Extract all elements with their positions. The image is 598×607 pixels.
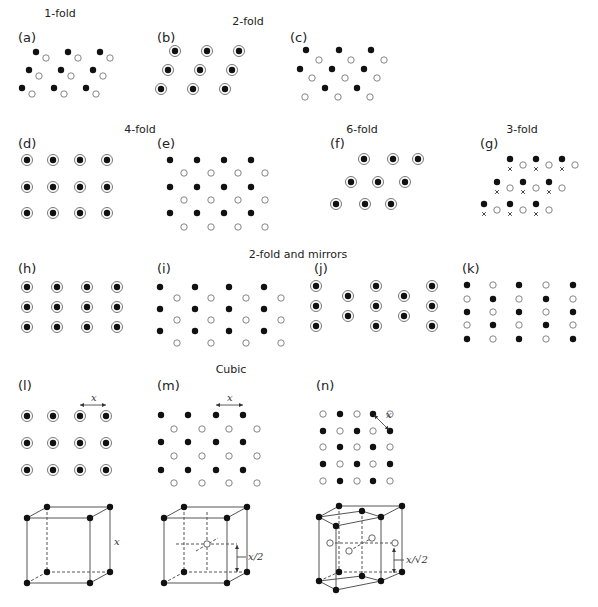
filled-atom bbox=[481, 201, 487, 207]
filled-atom bbox=[172, 48, 178, 54]
open-atom bbox=[61, 91, 67, 97]
open-atom bbox=[337, 428, 343, 434]
open-atom bbox=[367, 94, 373, 100]
section-title-cubic: Cubic bbox=[216, 363, 247, 376]
open-atom bbox=[243, 317, 249, 323]
cross-mark bbox=[508, 212, 512, 216]
cube-height-label-m: x/2 bbox=[248, 551, 263, 562]
open-atom bbox=[302, 94, 308, 100]
cell-atom bbox=[44, 569, 50, 575]
filled-atom bbox=[24, 324, 30, 330]
cell-atom bbox=[244, 569, 250, 575]
spacing-label-l: x bbox=[91, 392, 97, 403]
open-atom bbox=[174, 295, 180, 301]
filled-atom bbox=[114, 304, 120, 310]
cell-atom bbox=[316, 514, 322, 520]
filled-atom bbox=[194, 157, 200, 163]
section-titles: 1-fold2-fold4-fold6-fold3-fold2-fold and… bbox=[44, 7, 538, 376]
filled-atom bbox=[320, 428, 326, 434]
cell-atom bbox=[333, 523, 339, 529]
panel-label-f: (f) bbox=[330, 136, 345, 151]
open-atom bbox=[29, 91, 35, 97]
filled-atom bbox=[520, 179, 526, 185]
filled-atom bbox=[77, 157, 83, 163]
open-atom bbox=[235, 170, 241, 176]
open-atom bbox=[370, 461, 376, 467]
cell-atom bbox=[399, 503, 405, 509]
cross-mark bbox=[482, 212, 486, 216]
filled-atom bbox=[429, 283, 435, 289]
filled-atom bbox=[104, 157, 110, 163]
open-atom bbox=[387, 478, 393, 484]
filled-atom bbox=[54, 284, 60, 290]
filled-atom bbox=[313, 283, 319, 289]
filled-atom bbox=[248, 210, 254, 216]
cell-atom bbox=[161, 580, 167, 586]
open-atom bbox=[262, 224, 268, 230]
filled-atom bbox=[19, 85, 25, 91]
panel-label-h: (h) bbox=[18, 261, 36, 276]
filled-atom bbox=[368, 47, 374, 53]
open-atom bbox=[171, 453, 177, 459]
filled-atom bbox=[24, 184, 30, 190]
filled-atom bbox=[543, 296, 549, 302]
open-atom bbox=[43, 55, 49, 61]
filled-atom bbox=[77, 413, 83, 419]
spacing-label-m: x bbox=[227, 392, 233, 403]
section-title-2fold: 2-fold bbox=[232, 15, 264, 28]
filled-atom bbox=[261, 328, 267, 334]
open-atom bbox=[208, 295, 214, 301]
cell-atom bbox=[87, 515, 93, 521]
filled-atom bbox=[240, 412, 246, 418]
filled-atom bbox=[84, 324, 90, 330]
filled-atom bbox=[248, 157, 254, 163]
filled-atom bbox=[190, 86, 196, 92]
filled-atom bbox=[464, 282, 470, 288]
filled-atom bbox=[24, 304, 30, 310]
filled-atom bbox=[464, 309, 470, 315]
open-atom bbox=[36, 73, 42, 79]
filled-atom bbox=[77, 440, 83, 446]
cell-atom bbox=[378, 514, 384, 520]
cell-atom bbox=[107, 569, 113, 575]
open-atom bbox=[68, 73, 74, 79]
open-atom bbox=[348, 57, 354, 63]
filled-atom bbox=[157, 306, 163, 312]
open-atom bbox=[546, 162, 552, 168]
open-atom bbox=[208, 340, 214, 346]
filled-atom bbox=[221, 210, 227, 216]
filled-atom bbox=[345, 293, 351, 299]
panel-label-k: (k) bbox=[462, 261, 480, 276]
panel-label-m: (m) bbox=[157, 378, 180, 393]
open-atom bbox=[387, 444, 393, 450]
open-atom bbox=[320, 444, 326, 450]
filled-atom bbox=[185, 439, 191, 445]
filled-atom bbox=[24, 210, 30, 216]
open-atom bbox=[335, 94, 341, 100]
filled-atom bbox=[322, 85, 328, 91]
panel-label-e: (e) bbox=[157, 136, 175, 151]
open-atom bbox=[235, 224, 241, 230]
cell-atom-open bbox=[392, 540, 398, 546]
filled-atom bbox=[50, 157, 56, 163]
filled-atom bbox=[213, 439, 219, 445]
open-atom bbox=[546, 207, 552, 213]
cell-atom-open bbox=[369, 535, 375, 541]
filled-atom bbox=[570, 309, 576, 315]
open-atom bbox=[570, 322, 576, 328]
open-atom bbox=[278, 317, 284, 323]
filled-atom bbox=[50, 413, 56, 419]
spacing-label-n: x bbox=[386, 409, 392, 420]
panel-label-d: (d) bbox=[18, 136, 36, 151]
open-atom bbox=[320, 411, 326, 417]
filled-atom bbox=[104, 184, 110, 190]
filled-atom bbox=[77, 467, 83, 473]
open-atom bbox=[559, 185, 565, 191]
filled-atom bbox=[158, 86, 164, 92]
filled-atom bbox=[165, 67, 171, 73]
filled-atom bbox=[348, 179, 354, 185]
filled-atom bbox=[490, 322, 496, 328]
open-atom bbox=[208, 224, 214, 230]
filled-atom bbox=[402, 179, 408, 185]
filled-atom bbox=[373, 283, 379, 289]
